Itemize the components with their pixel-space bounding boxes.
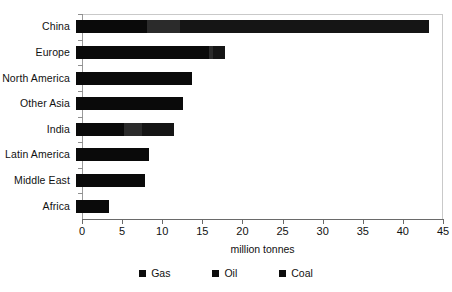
bar-row: India [0,117,452,143]
category-label: Other Asia [0,98,76,109]
legend-swatch-icon [279,270,286,277]
bar-row: Africa [0,193,452,219]
category-label: Middle East [0,175,76,186]
x-tick [443,219,444,224]
y-tick [78,117,83,118]
stacked-bar [76,20,429,33]
bar-track [76,117,452,143]
x-tick-label: 45 [426,225,452,238]
legend-label: Oil [224,268,237,279]
legend-item-coal[interactable]: Coal [279,268,313,279]
x-tick [242,219,243,224]
x-tick-label: 25 [266,225,300,238]
y-tick [78,65,83,66]
category-label: India [0,124,76,135]
bar-segment-coal [180,20,429,33]
chart-legend: GasOilCoal [0,268,452,279]
category-label: Europe [0,47,76,58]
stacked-bar [76,97,183,110]
stacked-bar [76,200,109,213]
x-tick-label: 5 [105,225,139,238]
category-label: Africa [0,201,76,212]
bar-segment-gas [76,20,147,33]
x-tick-label: 10 [145,225,179,238]
bar-segment-coal [142,123,174,136]
bar-segment-gas [76,123,124,136]
y-tick [78,91,83,92]
legend-item-gas[interactable]: Gas [139,268,170,279]
bar-track [76,65,452,91]
x-tick [403,219,404,224]
x-tick [122,219,123,224]
y-tick [78,168,83,169]
bar-track [76,91,452,117]
x-tick [323,219,324,224]
x-tick-label: 35 [346,225,380,238]
bar-row: North America [0,65,452,91]
x-tick [363,219,364,224]
bar-rows: ChinaEuropeNorth AmericaOther AsiaIndiaL… [0,14,452,219]
x-tick-label: 40 [386,225,420,238]
legend-swatch-icon [212,270,219,277]
bar-chart: ChinaEuropeNorth AmericaOther AsiaIndiaL… [0,0,452,292]
bar-segment-gas [76,46,209,59]
x-axis-title: million tonnes [82,243,443,255]
bar-row: Other Asia [0,91,452,117]
stacked-bar [76,148,149,161]
bar-row: Middle East [0,168,452,194]
legend-label: Coal [291,268,313,279]
bar-segment-oil [124,123,142,136]
bar-segment-gas [76,97,183,110]
bar-segment-gas [76,72,192,85]
bar-track [76,142,452,168]
stacked-bar [76,46,225,59]
x-tick [202,219,203,224]
legend-swatch-icon [139,270,146,277]
legend-label: Gas [151,268,170,279]
category-label: North America [0,73,76,84]
stacked-bar [76,123,174,136]
x-tick [162,219,163,224]
x-tick [283,219,284,224]
bar-row: China [0,14,452,40]
bar-segment-coal [213,46,225,59]
bar-segment-gas [76,148,149,161]
x-tick-label: 30 [306,225,340,238]
bar-track [76,193,452,219]
y-tick [78,14,83,15]
bar-row: Europe [0,40,452,66]
category-label: China [0,21,76,32]
bar-track [76,168,452,194]
stacked-bar [76,72,192,85]
bar-segment-gas [76,200,109,213]
y-tick [78,142,83,143]
bar-row: Latin America [0,142,452,168]
x-tick-label: 0 [65,225,99,238]
legend-item-oil[interactable]: Oil [212,268,237,279]
bar-track [76,40,452,66]
x-tick-label: 20 [225,225,259,238]
y-tick [78,40,83,41]
bar-segment-gas [76,174,145,187]
x-axis-ticks: 051015202530354045 [0,219,452,245]
x-tick [82,219,83,224]
bar-segment-oil [147,20,181,33]
stacked-bar [76,174,145,187]
y-tick [78,193,83,194]
x-tick-label: 15 [185,225,219,238]
category-label: Latin America [0,149,76,160]
bar-track [76,14,452,40]
